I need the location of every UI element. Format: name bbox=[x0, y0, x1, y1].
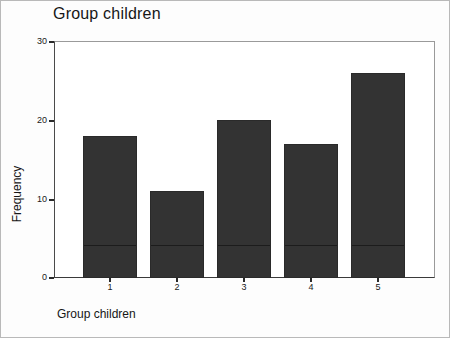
y-axis-tick-labels: 30 20 10 0 bbox=[1, 1, 47, 338]
y-tick-mark-20 bbox=[49, 120, 54, 122]
x-tick-label-4: 4 bbox=[301, 282, 321, 292]
y-tick-mark-10 bbox=[49, 199, 54, 201]
bar-category-4 bbox=[284, 144, 338, 278]
bar-category-5 bbox=[351, 73, 405, 278]
y-axis-label: Frequency bbox=[10, 134, 24, 254]
x-tick-label-1: 1 bbox=[100, 282, 120, 292]
y-tick-mark-0 bbox=[49, 277, 54, 279]
x-tick-label-2: 2 bbox=[167, 282, 187, 292]
page-title: Group children bbox=[53, 5, 161, 23]
x-tick-label-5: 5 bbox=[368, 282, 388, 292]
y-tick-label-0: 0 bbox=[42, 273, 47, 282]
x-axis-label: Group children bbox=[57, 307, 136, 321]
y-tick-label-10: 10 bbox=[37, 195, 47, 204]
bar-category-2 bbox=[150, 191, 204, 278]
y-tick-label-30: 30 bbox=[37, 37, 47, 46]
bar-category-1 bbox=[83, 136, 137, 278]
bar-series bbox=[54, 41, 435, 278]
y-tick-label-20: 20 bbox=[37, 116, 47, 125]
chart-page: Group children 30 20 10 0 1 2 3 4 5 Freq… bbox=[0, 0, 450, 338]
x-tick-label-3: 3 bbox=[234, 282, 254, 292]
y-tick-mark-30 bbox=[49, 41, 54, 43]
bar-category-3 bbox=[217, 120, 271, 278]
